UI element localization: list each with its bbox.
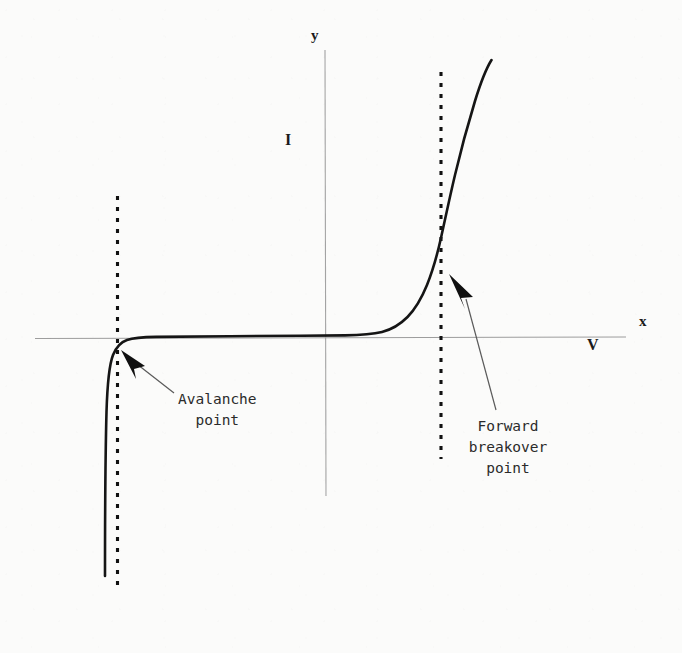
avalanche-point-annotation: Avalanche point <box>178 389 257 431</box>
forward-breakover-arrowhead <box>449 274 473 309</box>
voltage-axis-label: V <box>587 336 599 354</box>
y-axis-tip-label: y <box>311 27 319 44</box>
y-axis <box>325 50 326 496</box>
iv-characteristic-figure <box>0 0 682 653</box>
x-axis-tip-label: x <box>639 313 647 330</box>
avalanche-annotation-line-1: Avalanche <box>178 389 257 410</box>
forward-annotation-line-2: breakover <box>469 437 548 458</box>
forward-breakover-leader-line <box>466 299 496 410</box>
x-axis <box>35 337 626 339</box>
avalanche-annotation-line-2: point <box>178 410 257 431</box>
iv-curve <box>105 60 492 576</box>
current-axis-label: I <box>285 131 291 149</box>
avalanche-arrowhead <box>121 350 145 379</box>
forward-annotation-line-1: Forward <box>469 416 548 437</box>
forward-breakover-point-annotation: Forward breakover point <box>469 416 548 479</box>
forward-annotation-line-3: point <box>469 458 548 479</box>
